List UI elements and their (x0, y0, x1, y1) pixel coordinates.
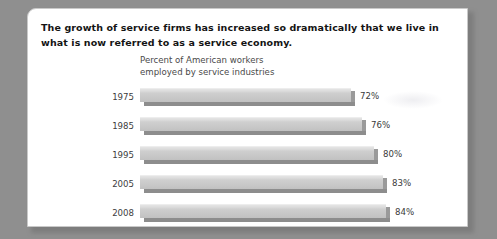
screenshot-root: The growth of service firms has increase… (0, 0, 497, 239)
content-card: The growth of service firms has increase… (27, 8, 468, 227)
bar-category-label: 2005 (74, 179, 134, 189)
bar (140, 88, 355, 106)
bar-category-label: 1985 (74, 121, 134, 131)
bar-value-label: 72% (360, 91, 379, 101)
bar (140, 146, 378, 164)
bar-face (140, 175, 383, 189)
bar-face (140, 146, 374, 160)
bar-row: 199580% (28, 144, 469, 173)
page-headline: The growth of service firms has increase… (41, 21, 457, 50)
bar-shadow (144, 102, 355, 106)
chart-bars: 197572%198576%199580%200583%200884% (28, 86, 469, 231)
bar-category-label: 1975 (74, 92, 134, 102)
bar-value-label: 80% (383, 149, 402, 159)
bar-shadow (144, 160, 378, 164)
bar-value-label: 84% (395, 207, 414, 217)
bar-shadow (144, 189, 387, 193)
bar-end-face (383, 178, 387, 189)
bar-shadow (144, 218, 390, 222)
bar-category-label: 1995 (74, 150, 134, 160)
bar-value-label: 76% (371, 120, 390, 130)
bar-row: 200583% (28, 173, 469, 202)
bar-face (140, 117, 362, 131)
chart-title: Percent of American workers employed by … (140, 55, 274, 78)
bar-end-face (351, 91, 355, 102)
bar (140, 175, 387, 193)
bar-category-label: 2008 (74, 208, 134, 218)
bar-end-face (374, 149, 378, 160)
bar (140, 204, 390, 222)
bar-row: 197572% (28, 86, 469, 115)
bar (140, 117, 366, 135)
bar-shadow (144, 131, 366, 135)
bar-row: 200884% (28, 202, 469, 231)
bar-face (140, 204, 386, 218)
bar-end-face (386, 207, 390, 218)
bar-end-face (362, 120, 366, 131)
bar-face (140, 88, 351, 102)
bar-row: 198576% (28, 115, 469, 144)
bar-value-label: 83% (392, 178, 411, 188)
